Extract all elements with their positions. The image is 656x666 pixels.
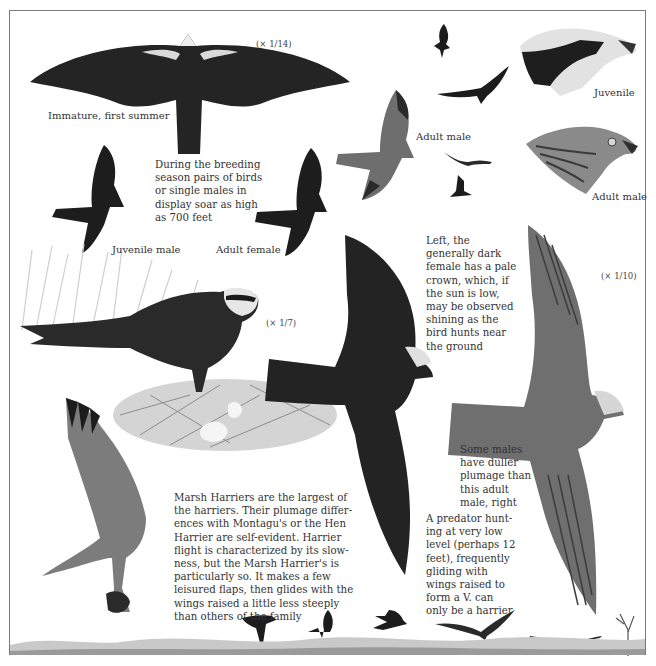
label-adult-male-flight: Adult male (416, 130, 471, 143)
adult-male-head-illustration (526, 124, 640, 196)
caption-duller-males: Some males have duller plumage than this… (460, 443, 531, 509)
silhouette-small-1 (434, 24, 454, 58)
silhouette-small-3 (444, 150, 492, 166)
adult-male-flight-illustration (336, 90, 416, 202)
scale-right: (× 1/10) (601, 271, 637, 281)
immature-spread-wing-illustration (30, 30, 350, 156)
scale-perched: (× 1/7) (266, 318, 296, 328)
label-juvenile-male: Juvenile male (112, 243, 181, 256)
caption-main-text: Marsh Harriers are the largest of the ha… (174, 491, 353, 623)
silhouette-small-4 (450, 175, 472, 197)
silhouette-small-2 (437, 66, 509, 106)
caption-female-crown: Left, the generally dark female has a pa… (426, 234, 516, 353)
ground-grass-strip (10, 621, 645, 655)
label-head-adult-male: Adult male (592, 190, 647, 203)
caption-display: During the breeding season pairs of bird… (155, 158, 262, 224)
label-head-juvenile: Juvenile (594, 86, 635, 99)
scale-top: (× 1/14) (256, 39, 292, 49)
male-with-prey-illustration (42, 398, 152, 618)
caption-predator: A predator hunt- ing at very low level (… (426, 512, 516, 618)
label-adult-female: Adult female (216, 243, 281, 256)
label-immature: Immature, first summer (48, 109, 169, 122)
perched-female-illustration (20, 282, 260, 392)
juvenile-male-flight-illustration (52, 145, 132, 255)
